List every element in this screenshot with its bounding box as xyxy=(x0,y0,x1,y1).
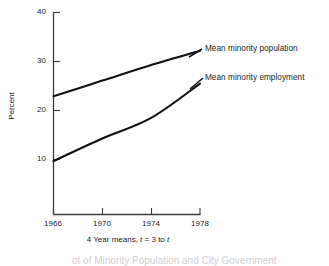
y-axis-title: Percent xyxy=(8,81,16,131)
x-tick-label-1966: 1966 xyxy=(36,220,70,228)
y-tick-label-40: 40 xyxy=(24,8,46,16)
x-tick-label-1970: 1970 xyxy=(85,220,119,228)
series-line-employment xyxy=(54,84,201,161)
x-axis-title: 4 Year means, t = 3 to t xyxy=(53,236,203,244)
chart-figure: 40 30 20 10 1966 1970 1974 1978 Percent … xyxy=(0,0,329,266)
y-tick-label-10: 10 xyxy=(24,155,46,163)
series-label-employment: Mean minority employment xyxy=(205,74,305,82)
x-axis-title-pre: 4 Year means, xyxy=(87,235,140,244)
page-caption-partial: ot of Minority Population and City Gover… xyxy=(72,256,322,266)
data-series-group xyxy=(54,51,201,161)
series-label-population: Mean minority population xyxy=(205,45,298,53)
x-tick-label-1974: 1974 xyxy=(134,220,168,228)
y-tick-label-30: 30 xyxy=(24,57,46,65)
x-axis-title-mid: = 3 to xyxy=(142,235,167,244)
series-line-population xyxy=(54,51,201,97)
x-tick-label-1978: 1978 xyxy=(183,220,217,228)
y-tick-label-20: 20 xyxy=(24,106,46,114)
x-axis-title-t2: t xyxy=(167,235,169,244)
